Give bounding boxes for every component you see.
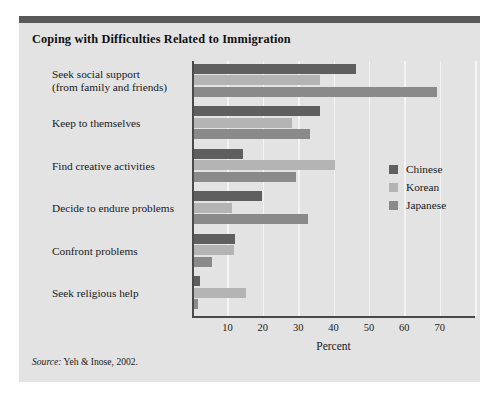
- bar: [193, 191, 262, 201]
- category-label: Decide to endure problems: [52, 202, 192, 215]
- legend-swatch-icon: [389, 183, 398, 192]
- x-axis-title: Percent: [192, 340, 475, 352]
- category-label-line: Find creative activities: [52, 160, 192, 173]
- x-tick-label: 40: [328, 322, 339, 333]
- legend-swatch-icon: [389, 165, 398, 174]
- legend-label: Korean: [406, 181, 439, 193]
- category-label-line: Decide to endure problems: [52, 202, 192, 215]
- gridline: [475, 61, 477, 316]
- legend-item[interactable]: Japanese: [389, 196, 446, 214]
- gridline: [227, 61, 229, 316]
- x-tick-label: 30: [293, 322, 304, 333]
- x-tick-label: 70: [434, 322, 445, 333]
- category-label: Keep to themselves: [52, 117, 192, 130]
- bar: [193, 106, 320, 116]
- bar: [193, 87, 437, 97]
- legend-label: Japanese: [406, 199, 446, 211]
- gridline: [263, 61, 265, 316]
- source-note: Source: Yeh & Inose, 2002.: [32, 356, 138, 367]
- top-rule-divider: [19, 16, 480, 23]
- source-citation: Yeh & Inose, 2002.: [61, 356, 138, 367]
- category-label-line: (from family and friends): [52, 81, 192, 94]
- category-axis-labels: Seek social support(from family and frie…: [52, 61, 192, 317]
- bar: [193, 149, 243, 159]
- bar: [193, 118, 292, 128]
- bar: [193, 245, 234, 255]
- category-label-line: Seek social support: [52, 68, 192, 81]
- bar: [193, 234, 235, 244]
- source-label: Source:: [32, 356, 61, 367]
- category-label-line: Seek religious help: [52, 287, 192, 300]
- bar: [193, 203, 232, 213]
- chart-title: Coping with Difficulties Related to Immi…: [32, 32, 291, 47]
- gridline: [334, 61, 336, 316]
- gridline: [369, 61, 371, 316]
- bar: [193, 172, 296, 182]
- bar: [193, 257, 212, 267]
- category-label: Seek religious help: [52, 287, 192, 300]
- category-label-line: Keep to themselves: [52, 117, 192, 130]
- legend-item[interactable]: Korean: [389, 178, 446, 196]
- bar: [193, 75, 320, 85]
- bar: [193, 64, 356, 74]
- legend-item[interactable]: Chinese: [389, 160, 446, 178]
- bar: [193, 160, 335, 170]
- chart-figure: Coping with Difficulties Related to Immi…: [19, 16, 480, 382]
- chart-legend: ChineseKoreanJapanese: [389, 160, 446, 214]
- x-tick-label: 60: [399, 322, 410, 333]
- bar: [193, 129, 310, 139]
- category-label-line: Confront problems: [52, 245, 192, 258]
- y-axis-line: [192, 61, 194, 317]
- legend-label: Chinese: [406, 163, 442, 175]
- x-tick-label: 10: [222, 322, 233, 333]
- category-label: Confront problems: [52, 245, 192, 258]
- bar: [193, 214, 308, 224]
- bar: [193, 288, 246, 298]
- x-axis-line: [192, 316, 475, 318]
- legend-swatch-icon: [389, 201, 398, 210]
- gridline: [298, 61, 300, 316]
- category-label: Find creative activities: [52, 160, 192, 173]
- bar: [193, 276, 200, 286]
- x-tick-label: 20: [258, 322, 269, 333]
- x-tick-label: 50: [364, 322, 375, 333]
- category-label: Seek social support(from family and frie…: [52, 68, 192, 94]
